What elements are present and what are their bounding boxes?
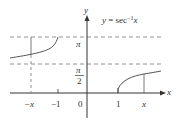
x-tick-zero: 0 [78,99,83,109]
y-axis-label: y [83,5,88,15]
x-tick-x: x [141,99,146,109]
arcsec-graph: y x y = sec−1x π π 2 −x −1 0 1 x [0,0,181,123]
curve-left-branch [10,37,58,58]
x-tick-one: 1 [116,99,121,109]
y-axis-arrow-icon [85,15,90,21]
x-axis-label: x [166,87,171,97]
y-tick-pi: π [76,39,81,49]
y-tick-pi-half-den: 2 [77,76,82,86]
x-axis-arrow-icon [160,91,166,96]
x-tick-minus-x: −x [24,99,34,109]
y-tick-pi-half-num: π [76,65,81,75]
curve-right-branch [118,71,161,93]
function-title: y = sec−1x [101,15,137,25]
x-tick-minus-one: −1 [51,99,61,109]
